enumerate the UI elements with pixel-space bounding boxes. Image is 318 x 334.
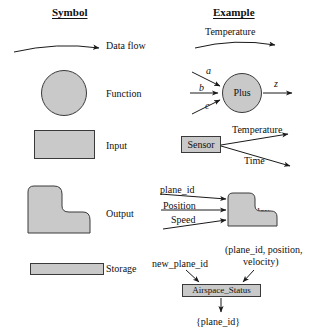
example-input-label-plane-id: plane_id bbox=[160, 184, 194, 195]
example-arrow-temperature bbox=[195, 42, 275, 48]
example-input-label-a: a bbox=[206, 65, 211, 76]
example-node-label-sensor: Sensor bbox=[181, 139, 221, 150]
symbol-label-output: Output bbox=[106, 208, 134, 219]
symbol-label-data-flow: Data flow bbox=[106, 40, 146, 51]
symbol-shape-output-stepped bbox=[28, 186, 90, 233]
example-output-label-plane-id-set: {plane_id} bbox=[196, 316, 240, 327]
example-output-label-z: z bbox=[274, 78, 278, 89]
column-header-symbol: Symbol bbox=[52, 6, 87, 18]
example-input-label-speed: Speed bbox=[171, 214, 195, 225]
symbol-label-input: Input bbox=[106, 140, 127, 151]
symbol-shape-input-rectangle bbox=[34, 130, 95, 159]
example-output-label-time: Time bbox=[244, 155, 265, 166]
example-input-label-c: c bbox=[205, 100, 209, 111]
example-node-label-airspace-status: Airspace_Status bbox=[182, 285, 261, 295]
example-flow-label-temperature: Temperature bbox=[205, 26, 255, 37]
example-node-label-plus: Plus bbox=[222, 87, 262, 98]
example-node-label-display: Display bbox=[233, 206, 275, 217]
example-input-label-tuple-line2: velocity) bbox=[243, 256, 279, 267]
dataflow-legend-diagram: Symbol Example Data flow Temperature Fun… bbox=[0, 0, 318, 334]
symbol-label-function: Function bbox=[106, 88, 142, 99]
example-input-label-position: Position bbox=[163, 200, 196, 211]
example-arrow-sensor-temperature bbox=[221, 134, 288, 145]
example-input-label-tuple-line1: (plane_id, position, bbox=[225, 244, 303, 255]
example-input-label-b: b bbox=[199, 82, 204, 93]
symbol-label-storage: Storage bbox=[106, 263, 137, 274]
example-arrow-tuple bbox=[243, 270, 254, 282]
symbol-arrow-data-flow bbox=[14, 46, 99, 52]
symbol-shape-function-circle bbox=[41, 70, 87, 116]
column-header-example: Example bbox=[213, 6, 255, 18]
example-arrow-new-plane-id bbox=[186, 270, 199, 282]
symbol-shape-storage-bar bbox=[30, 263, 104, 275]
example-input-label-new-plane-id: new_plane_id bbox=[152, 258, 208, 269]
example-output-label-temperature: Temperature bbox=[232, 124, 282, 135]
diagram-vector-overlay bbox=[0, 0, 318, 334]
